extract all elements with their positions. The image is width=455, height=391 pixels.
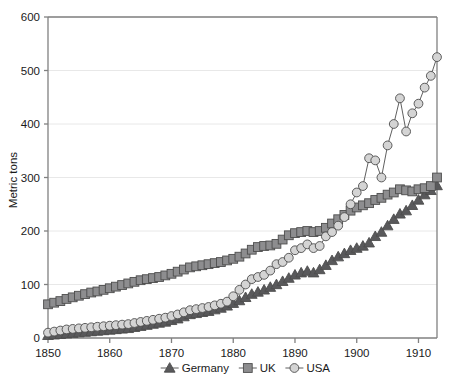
data-point-circle <box>377 173 386 182</box>
data-point-circle <box>389 120 398 129</box>
data-point-square <box>433 173 442 182</box>
data-point-circle <box>426 71 435 80</box>
y-tick-label: 400 <box>21 118 40 130</box>
legend-label: Germany <box>182 362 230 374</box>
legend-item-germany[interactable]: Germany <box>161 362 230 374</box>
x-tick-label: 1860 <box>97 347 123 359</box>
data-point-circle <box>359 182 368 191</box>
data-point-circle <box>371 156 380 165</box>
data-point-circle <box>408 109 417 118</box>
legend-label: USA <box>306 362 330 374</box>
data-point-circle <box>414 99 423 108</box>
x-tick-label: 1900 <box>344 347 370 359</box>
y-tick-label: 200 <box>21 225 40 237</box>
chart-figure: 0100200300400500600 18501860187018801890… <box>0 0 455 391</box>
x-tick-label: 1910 <box>406 347 432 359</box>
data-point-square <box>243 364 252 373</box>
chart-legend: GermanyUKUSA <box>161 362 331 374</box>
data-point-circle <box>383 141 392 150</box>
x-tick-labels: 1850186018701880189019001910 <box>35 347 431 359</box>
x-tick-marks <box>48 338 418 343</box>
y-tick-label: 0 <box>34 332 40 344</box>
series-markers <box>43 53 443 340</box>
data-point-circle <box>340 213 349 222</box>
data-point-circle <box>334 221 343 230</box>
data-point-circle <box>290 364 299 373</box>
x-tick-label: 1850 <box>35 347 61 359</box>
legend-item-uk[interactable]: UK <box>239 362 276 374</box>
x-tick-label: 1870 <box>159 347 185 359</box>
data-point-circle <box>402 127 411 136</box>
gridlines <box>48 17 437 285</box>
data-point-circle <box>433 53 442 62</box>
data-point-circle <box>420 83 429 92</box>
y-tick-label: 600 <box>21 11 40 23</box>
data-point-triangle <box>164 363 175 373</box>
y-tick-label: 500 <box>21 65 40 77</box>
y-axis-title: Metric tons <box>7 152 19 208</box>
data-point-circle <box>284 253 293 262</box>
data-point-square <box>426 182 435 191</box>
legend-item-usa[interactable]: USA <box>285 362 330 374</box>
y-tick-label: 300 <box>21 172 40 184</box>
y-tick-labels: 0100200300400500600 <box>21 11 40 344</box>
legend-label: UK <box>260 362 276 374</box>
y-tick-label: 100 <box>21 279 40 291</box>
data-point-circle <box>396 94 405 103</box>
x-tick-label: 1880 <box>220 347 246 359</box>
x-tick-label: 1890 <box>282 347 308 359</box>
data-point-circle <box>346 200 355 209</box>
data-point-circle <box>315 242 324 251</box>
line-chart: 0100200300400500600 18501860187018801890… <box>0 0 455 391</box>
